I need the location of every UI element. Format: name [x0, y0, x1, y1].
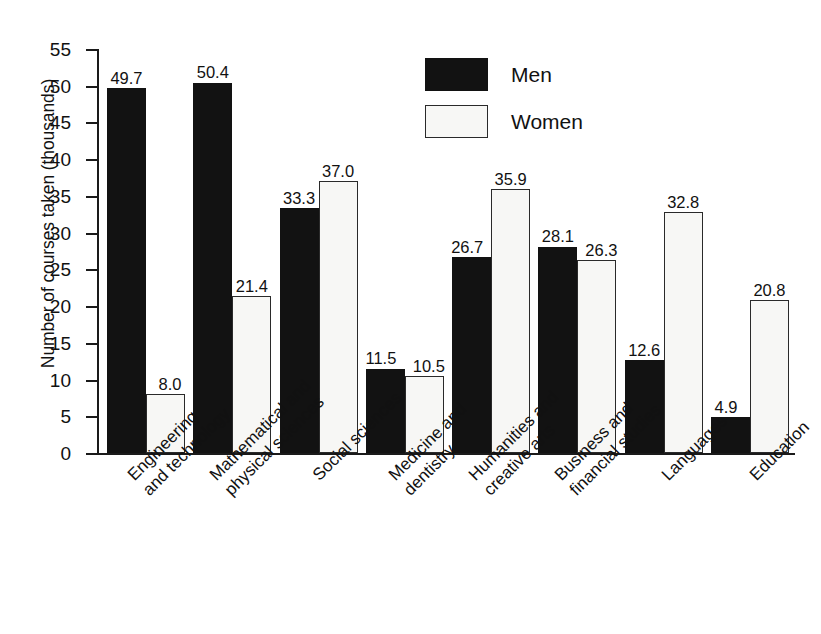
bar-value-label: 21.4	[236, 278, 268, 295]
y-axis-tick: 15	[86, 343, 97, 345]
bar-men: 49.7	[107, 88, 146, 453]
y-axis-tick: 20	[86, 306, 97, 308]
y-axis-tick-label: 30	[50, 223, 71, 245]
y-axis-tick-label: 10	[50, 370, 71, 392]
bar-value-label: 12.6	[628, 342, 660, 359]
legend-swatch-men	[425, 58, 488, 91]
bar-value-label: 8.0	[158, 376, 181, 393]
y-axis-tick-label: 35	[50, 186, 71, 208]
y-axis-tick: 30	[86, 233, 97, 235]
bar-women: 32.8	[664, 212, 703, 453]
bar-value-label: 49.7	[110, 70, 142, 87]
bar-value-label: 20.8	[753, 282, 785, 299]
legend-swatch-women	[425, 105, 488, 138]
y-axis-line	[97, 49, 99, 455]
legend-item-men: Men	[425, 58, 583, 91]
y-axis-tick: 10	[86, 380, 97, 382]
y-axis-tick-label: 50	[50, 76, 71, 98]
y-axis-tick: 45	[86, 122, 97, 124]
bar-value-label: 35.9	[495, 171, 527, 188]
bar-women: 20.8	[750, 300, 789, 453]
y-axis-tick: 40	[86, 159, 97, 161]
legend-label: Men	[511, 63, 552, 87]
y-axis-tick-label: 0	[60, 443, 71, 465]
bar-value-label: 28.1	[542, 228, 574, 245]
y-axis-tick: 35	[86, 196, 97, 198]
bar-women: 37.0	[319, 181, 358, 453]
y-axis-tick-label: 25	[50, 259, 71, 281]
bar-value-label: 50.4	[197, 64, 229, 81]
y-axis-tick: 5	[86, 416, 97, 418]
y-axis-tick-label: 55	[50, 39, 71, 61]
y-axis-tick-label: 40	[50, 149, 71, 171]
bar-value-label: 11.5	[365, 350, 396, 367]
bar-value-label: 10.5	[413, 358, 445, 375]
bar-value-label: 26.7	[451, 239, 483, 256]
bar-value-label: 33.3	[283, 190, 315, 207]
bar-value-label: 26.3	[585, 242, 617, 259]
y-axis-tick: 55	[86, 49, 97, 51]
bar-value-label: 32.8	[667, 194, 699, 211]
y-axis-tick: 25	[86, 269, 97, 271]
y-axis-tick-label: 15	[50, 333, 71, 355]
legend-label: Women	[511, 110, 583, 134]
legend: MenWomen	[425, 58, 583, 152]
y-axis-tick-label: 5	[60, 406, 71, 428]
y-axis-tick: 50	[86, 86, 97, 88]
legend-item-women: Women	[425, 105, 583, 138]
y-axis-tick-label: 45	[50, 112, 71, 134]
y-axis-tick: 0	[86, 453, 97, 455]
bar-value-label: 37.0	[322, 163, 354, 180]
chart-figure: Number of courses taken (thousands) 5550…	[0, 0, 821, 634]
y-axis-tick-label: 20	[50, 296, 71, 318]
